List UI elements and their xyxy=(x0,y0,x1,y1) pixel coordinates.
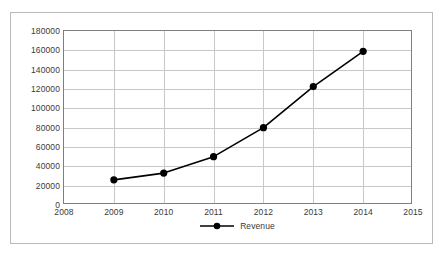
y-tick-label: 140000 xyxy=(31,65,60,75)
y-tick-label: 160000 xyxy=(31,45,60,55)
y-tick-label: 20000 xyxy=(36,181,60,191)
y-tick-label: 100000 xyxy=(31,103,60,113)
data-point-marker xyxy=(360,48,367,55)
data-point-marker xyxy=(310,83,317,90)
y-tick-label: 60000 xyxy=(36,142,60,152)
x-tick-label: 2008 xyxy=(54,207,73,217)
y-tick-label: 40000 xyxy=(36,161,60,171)
data-point-marker xyxy=(160,170,167,177)
data-point-marker xyxy=(260,124,267,131)
x-tick-label: 2014 xyxy=(353,207,372,217)
data-point-marker xyxy=(110,176,117,183)
y-tick-label: 80000 xyxy=(36,123,60,133)
chart-figure: 0200004000060000800001000001200001400001… xyxy=(10,12,433,244)
legend-marker-icon xyxy=(200,221,234,231)
x-tick-label: 2015 xyxy=(403,207,422,217)
legend-label-revenue: Revenue xyxy=(240,221,275,231)
data-point-marker xyxy=(210,153,217,160)
x-tick-label: 2011 xyxy=(204,207,223,217)
y-tick-label: 120000 xyxy=(31,84,60,94)
x-tick-label: 2012 xyxy=(254,207,273,217)
chart-legend: Revenue xyxy=(63,221,412,231)
x-tick-label: 2010 xyxy=(154,207,173,217)
plot-inner xyxy=(64,31,411,203)
plot-area: 0200004000060000800001000001200001400001… xyxy=(63,30,412,204)
y-tick-label: 180000 xyxy=(31,26,60,36)
series-polyline xyxy=(114,51,363,180)
x-tick-label: 2013 xyxy=(304,207,323,217)
series-line-revenue xyxy=(64,31,413,205)
x-tick-label: 2009 xyxy=(104,207,123,217)
